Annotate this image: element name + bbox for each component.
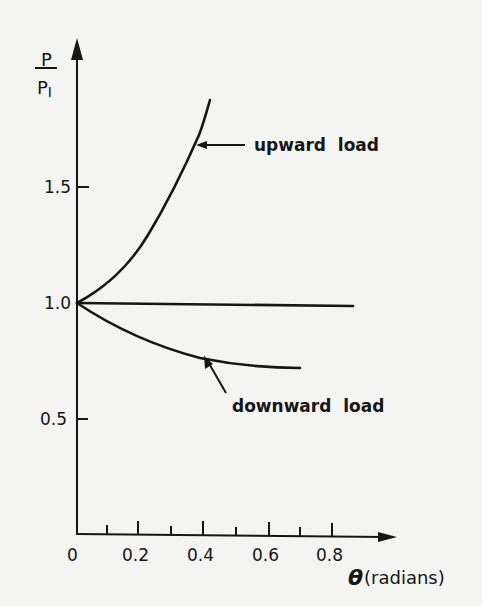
axes [76,52,385,537]
reference-line [77,303,353,306]
y-axis-label-numerator: P [41,49,52,70]
x-axis [76,534,385,537]
arrow-left-icon [196,141,207,149]
y-tick-label-1.5: 1.5 [44,177,71,197]
downward-load-label: downward load [232,396,384,416]
y-tick-label-0.5: 0.5 [40,409,67,429]
upward-load-label: upward load [254,135,379,155]
x-tick-label-0.2: 0.2 [122,545,149,565]
chart: 0 0.2 0.4 0.6 0.8 1.5 1.0 0.5 P PI θ (ra… [0,0,482,606]
x-tick-label-0.6: 0.6 [252,545,279,565]
x-axis-label-theta: θ [348,565,363,590]
y-tick-label-1.0: 1.0 [44,293,71,313]
x-tick-label-0.4: 0.4 [187,545,214,565]
downward-load-curve [77,303,300,368]
x-tick-label-0: 0 [67,545,78,565]
x-axis-arrow-icon [378,532,397,542]
y-axis-arrow-icon [71,38,83,60]
upward-load-annotation: upward load [196,135,379,155]
x-axis-label-unit: (radians) [364,567,445,588]
downward-load-annotation: downward load [204,356,384,416]
y-axis-label-denominator: PI [37,77,52,100]
upward-load-curve [77,100,210,303]
x-tick-label-0.8: 0.8 [316,545,343,565]
